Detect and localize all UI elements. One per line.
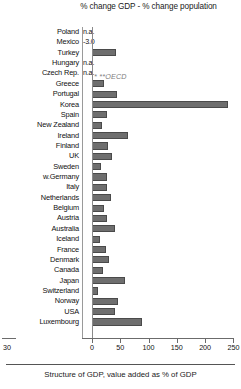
bar-row: n.a. xyxy=(82,27,241,37)
category-label-row: Belgium xyxy=(0,203,82,213)
category-label: Denmark xyxy=(50,255,79,265)
axis-tick xyxy=(92,339,93,343)
value-axis-stub-label: 30 xyxy=(3,343,11,352)
plot-left-border xyxy=(82,27,83,338)
category-label-row: Iceland xyxy=(0,234,82,244)
chart-caption: Structure of GDP, value added as % of GD… xyxy=(0,370,241,379)
axis-tick xyxy=(205,339,206,343)
category-label: w.Germany xyxy=(43,172,79,182)
axis-tick xyxy=(233,339,234,343)
category-label: Canada xyxy=(54,265,79,275)
category-label-row: France xyxy=(0,245,82,255)
category-label: Hungary xyxy=(52,58,79,68)
bar-row xyxy=(82,317,241,327)
category-label: Belgium xyxy=(53,203,79,213)
bar[interactable] xyxy=(92,111,107,118)
footer-divider xyxy=(6,364,235,365)
bar-row xyxy=(82,255,241,265)
value-axis-line xyxy=(82,338,234,339)
bar[interactable] xyxy=(92,184,107,191)
bar[interactable] xyxy=(92,308,115,315)
bar-row xyxy=(82,162,241,172)
bar-row xyxy=(82,286,241,296)
category-label: Ireland xyxy=(57,131,79,141)
bar[interactable] xyxy=(92,91,117,98)
axis-tick-label: 100 xyxy=(143,343,155,352)
axis-tick-label: 200 xyxy=(199,343,211,352)
bar-row: -3.0 xyxy=(82,37,241,47)
bar-row xyxy=(82,48,241,58)
category-label-row: Czech Rep. xyxy=(0,68,82,78)
category-label-row: Sweden xyxy=(0,162,82,172)
category-label: Mexico xyxy=(56,37,79,47)
axis-tick-label: 0 xyxy=(90,343,94,352)
bar-row xyxy=(82,213,241,223)
category-label: Japan xyxy=(60,276,79,286)
bar-row xyxy=(82,172,241,182)
category-label-row: Netherlands xyxy=(0,193,82,203)
bar-row xyxy=(82,234,241,244)
bar[interactable] xyxy=(92,298,118,305)
bar[interactable] xyxy=(92,246,106,253)
category-label-row: Korea xyxy=(0,100,82,110)
category-label: Portugal xyxy=(53,89,79,99)
category-label-row: Hungary xyxy=(0,58,82,68)
category-label: Turkey xyxy=(58,48,79,58)
bar[interactable] xyxy=(92,205,104,212)
bar[interactable] xyxy=(92,153,112,160)
category-label: Greece xyxy=(56,79,79,89)
category-label: France xyxy=(57,245,79,255)
category-label: Italy xyxy=(66,182,79,192)
bar-row xyxy=(82,89,241,99)
category-label: Spain xyxy=(61,110,79,120)
category-label-row: USA xyxy=(0,307,82,317)
bar[interactable] xyxy=(92,49,116,56)
category-label-row: Ireland xyxy=(0,131,82,141)
bar[interactable] xyxy=(92,122,102,129)
category-label-row: Denmark xyxy=(0,255,82,265)
bar-row xyxy=(82,276,241,286)
category-label: Iceland xyxy=(56,234,79,244)
bar[interactable] xyxy=(92,101,228,108)
bar-row xyxy=(82,296,241,306)
bar[interactable] xyxy=(92,173,107,180)
bar[interactable] xyxy=(92,267,103,274)
bar[interactable] xyxy=(92,277,125,284)
bar[interactable] xyxy=(92,256,109,263)
category-label: Sweden xyxy=(53,162,79,172)
bar[interactable] xyxy=(92,194,111,201)
category-label-row: Poland xyxy=(0,27,82,37)
category-label: Australia xyxy=(52,224,79,234)
bar-row xyxy=(82,203,241,213)
axis-tick xyxy=(149,339,150,343)
bar-row xyxy=(82,245,241,255)
axis-tick xyxy=(120,339,121,343)
category-label-row: Austria xyxy=(0,213,82,223)
bar[interactable] xyxy=(92,318,142,325)
category-label: Austria xyxy=(57,213,79,223)
bar[interactable] xyxy=(92,142,108,149)
chart-title: % change GDP - % change population xyxy=(56,2,241,11)
bar-row xyxy=(82,110,241,120)
category-label-row: Spain xyxy=(0,110,82,120)
bar[interactable] xyxy=(92,132,128,139)
bar[interactable] xyxy=(92,80,104,87)
bar[interactable] xyxy=(92,163,101,170)
category-label-row: Australia xyxy=(0,224,82,234)
bar-row: n.a. xyxy=(82,58,241,68)
category-label-row: Italy xyxy=(0,182,82,192)
category-label: Czech Rep. xyxy=(42,68,79,78)
bar[interactable] xyxy=(92,225,115,232)
plot-area: PolandMexicoTurkeyHungaryCzech Rep.Greec… xyxy=(0,27,241,350)
category-label-row: Norway xyxy=(0,296,82,306)
bar-row xyxy=(82,265,241,275)
bar[interactable] xyxy=(92,236,100,243)
category-label-row: Switzerland xyxy=(0,286,82,296)
bar[interactable] xyxy=(92,215,107,222)
bar-row xyxy=(82,193,241,203)
category-label-row: Greece xyxy=(0,79,82,89)
bar-row xyxy=(82,151,241,161)
axis-tick xyxy=(177,339,178,343)
axis-tick-label: 150 xyxy=(171,343,183,352)
category-axis-labels: PolandMexicoTurkeyHungaryCzech Rep.Greec… xyxy=(0,27,82,338)
